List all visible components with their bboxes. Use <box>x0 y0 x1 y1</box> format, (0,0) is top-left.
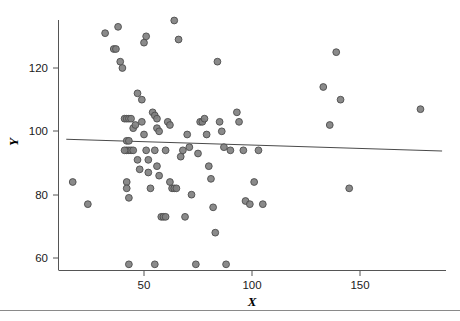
x-tick-label-100: 100 <box>242 279 261 291</box>
data-point <box>84 201 91 208</box>
data-point <box>212 229 219 236</box>
data-point <box>188 191 195 198</box>
data-point <box>223 261 230 268</box>
data-point <box>125 261 132 268</box>
data-point <box>102 30 109 37</box>
x-axis-title: X <box>247 294 257 309</box>
data-point <box>115 23 122 30</box>
data-point <box>171 17 178 24</box>
data-point <box>326 122 333 129</box>
x-tick-label-150: 150 <box>350 279 369 291</box>
data-point <box>251 179 258 186</box>
data-point <box>333 49 340 56</box>
data-point <box>337 96 344 103</box>
data-point <box>205 163 212 170</box>
data-point <box>138 96 145 103</box>
data-point <box>156 128 163 135</box>
y-tick-label-100: 100 <box>29 125 48 137</box>
data-point <box>154 163 161 170</box>
data-point <box>175 36 182 43</box>
data-point <box>151 261 158 268</box>
data-point <box>346 185 353 192</box>
data-point <box>162 147 169 154</box>
data-point <box>132 122 139 129</box>
y-tick-label-80: 80 <box>35 189 48 201</box>
data-point <box>134 90 141 97</box>
x-axis-ticks <box>144 271 360 277</box>
data-point <box>179 147 186 154</box>
data-point <box>145 169 152 176</box>
data-point <box>143 147 150 154</box>
data-point <box>138 118 145 125</box>
data-point <box>173 185 180 192</box>
y-tick-label-60: 60 <box>35 252 48 264</box>
data-point <box>147 185 154 192</box>
data-point <box>167 179 174 186</box>
data-point <box>113 46 120 53</box>
data-point <box>156 172 163 179</box>
data-point <box>255 147 262 154</box>
data-point <box>203 131 210 138</box>
data-point <box>210 204 217 211</box>
data-point <box>121 147 128 154</box>
scatter-plot-figure: 120 100 80 60 50 100 150 X Y <box>0 0 460 321</box>
data-point <box>143 33 150 40</box>
data-point <box>162 213 169 220</box>
data-point <box>141 39 148 46</box>
data-point <box>221 144 228 151</box>
data-point <box>128 115 135 122</box>
data-point <box>125 194 132 201</box>
data-point <box>236 118 243 125</box>
data-point <box>186 144 193 151</box>
data-point <box>192 261 199 268</box>
data-point <box>177 153 184 160</box>
data-point <box>145 156 152 163</box>
data-point <box>216 118 223 125</box>
data-point <box>227 147 234 154</box>
data-point <box>123 185 130 192</box>
data-point <box>208 175 215 182</box>
data-points-group <box>69 17 424 268</box>
y-tick-label-120: 120 <box>29 62 48 74</box>
data-point <box>182 213 189 220</box>
data-point <box>259 201 266 208</box>
data-point <box>134 156 141 163</box>
data-point <box>136 166 143 173</box>
data-point <box>195 150 202 157</box>
data-point <box>184 131 191 138</box>
data-point <box>233 109 240 116</box>
scatter-plot-svg: 120 100 80 60 50 100 150 X Y <box>0 0 460 321</box>
data-point <box>218 128 225 135</box>
data-point <box>130 147 137 154</box>
data-point <box>214 58 221 65</box>
data-point <box>69 179 76 186</box>
data-point <box>246 201 253 208</box>
data-point <box>320 84 327 91</box>
data-point <box>117 58 124 65</box>
data-point <box>240 147 247 154</box>
data-point <box>119 65 126 72</box>
data-point <box>167 122 174 129</box>
y-axis-title: Y <box>6 137 21 146</box>
data-point <box>125 137 132 144</box>
data-point <box>123 179 130 186</box>
x-tick-label-50: 50 <box>138 279 151 291</box>
y-axis-ticks <box>53 68 59 258</box>
data-point <box>417 106 424 113</box>
data-point <box>201 115 208 122</box>
data-point <box>151 147 158 154</box>
data-point <box>141 131 148 138</box>
data-point <box>154 115 161 122</box>
